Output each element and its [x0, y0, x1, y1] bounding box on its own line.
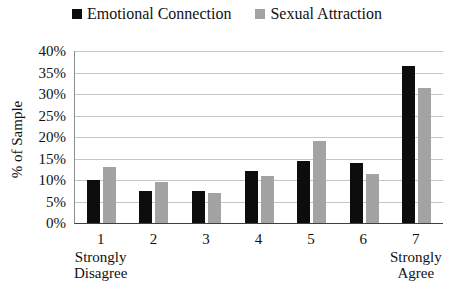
x-axis-label-cell: 6 [337, 230, 389, 281]
bar [208, 193, 221, 223]
bar [155, 182, 168, 223]
bar [297, 161, 310, 223]
legend-item: Sexual Attraction [255, 5, 382, 23]
bar [245, 171, 258, 223]
x-axis-labels: 1StronglyDisagree234567StronglyAgree [74, 230, 442, 281]
bar [402, 66, 415, 223]
bar [192, 191, 205, 223]
bar [139, 191, 152, 223]
y-tick-label: 35% [0, 64, 66, 82]
bar-group-6 [338, 51, 391, 223]
bar-chart: Emotional ConnectionSexual Attraction % … [0, 0, 454, 293]
bar-group-3 [180, 51, 233, 223]
x-tick-label: 6 [337, 230, 389, 249]
bar-group-7 [390, 51, 443, 223]
plot-area [74, 51, 443, 224]
x-tick-label: 4 [232, 230, 284, 249]
x-axis-label-cell: 1StronglyDisagree [74, 230, 127, 281]
x-axis-label-cell: 7StronglyAgree [390, 230, 442, 281]
x-axis-annotation: Strongly [74, 249, 127, 265]
legend-label: Sexual Attraction [270, 5, 382, 23]
legend-swatch-icon [255, 9, 265, 19]
x-axis-label-cell: 4 [232, 230, 284, 281]
legend: Emotional ConnectionSexual Attraction [0, 5, 454, 23]
y-tick-label: 15% [0, 150, 66, 168]
x-tick-label: 1 [74, 230, 127, 249]
bar [350, 163, 363, 223]
x-tick-label: 7 [390, 230, 442, 249]
bar-groups [75, 51, 443, 223]
x-axis-annotation: Strongly [390, 249, 442, 265]
y-tick-label: 40% [0, 42, 66, 60]
bar-group-2 [128, 51, 181, 223]
bar-group-5 [285, 51, 338, 223]
legend-item: Emotional Connection [72, 5, 231, 23]
y-tick-label: 25% [0, 107, 66, 125]
x-tick-label: 3 [180, 230, 232, 249]
bar [418, 88, 431, 223]
bar [313, 141, 326, 223]
bar [103, 167, 116, 223]
bar [366, 174, 379, 223]
legend-label: Emotional Connection [87, 5, 231, 23]
x-tick-label: 2 [127, 230, 179, 249]
bar-group-4 [233, 51, 286, 223]
y-tick-label: 10% [0, 171, 66, 189]
bar-group-1 [75, 51, 128, 223]
bar [87, 180, 100, 223]
y-tick-label: 0% [0, 214, 66, 232]
y-tick-label: 30% [0, 85, 66, 103]
bar [261, 176, 274, 223]
x-axis-label-cell: 3 [180, 230, 232, 281]
x-tick-label: 5 [285, 230, 337, 249]
x-axis-annotation: Agree [390, 265, 442, 281]
legend-swatch-icon [72, 9, 82, 19]
y-tick-label: 5% [0, 193, 66, 211]
x-axis-annotation: Disagree [74, 265, 127, 281]
y-tick-label: 20% [0, 128, 66, 146]
x-axis-label-cell: 2 [127, 230, 179, 281]
x-axis-label-cell: 5 [285, 230, 337, 281]
